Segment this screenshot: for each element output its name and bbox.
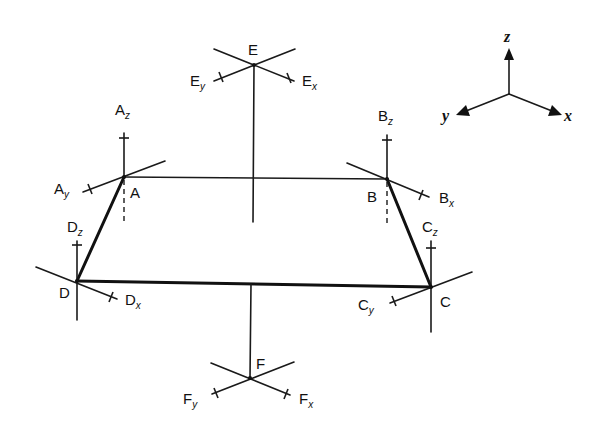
member-ad: [77, 177, 124, 281]
member-ab: [124, 177, 387, 179]
y-axis-arrowhead-icon: [456, 105, 470, 116]
joint-c-label: C: [440, 293, 451, 310]
joint-a-label: A: [130, 184, 140, 201]
force-dx-label: Dx: [125, 291, 142, 311]
joint-d-dot: [75, 279, 79, 283]
joint-c: C Cz Cy: [358, 218, 472, 332]
joint-f: F Fy Fx: [183, 355, 314, 410]
force-ey-label: Ey: [190, 72, 206, 92]
joint-c-dot: [429, 285, 433, 289]
joint-e-dot: [252, 63, 256, 67]
joint-f-dot: [248, 376, 252, 380]
force-fy-label: Fy: [183, 390, 198, 410]
joint-b-label: B: [367, 188, 377, 205]
z-axis-label: z: [503, 28, 511, 45]
truss-diagram: z y x E Ey Ex A Az Ay: [0, 0, 603, 430]
member-dc: [77, 281, 431, 287]
force-bz-label: Bz: [378, 107, 393, 127]
force-fx-label: Fx: [299, 390, 314, 410]
force-bx-label: Bx: [439, 189, 455, 209]
force-az-label: Az: [115, 101, 130, 121]
joint-b: B Bz Bx: [347, 107, 455, 225]
strut-e: [253, 65, 254, 222]
joint-f-label: F: [256, 355, 265, 372]
coordinate-axes: z y x: [440, 28, 572, 125]
force-cy-label: Cy: [358, 296, 375, 316]
joint-d-label: D: [59, 284, 70, 301]
joint-a-dot: [122, 175, 126, 179]
force-ex-label: Ex: [302, 72, 318, 92]
y-axis-label: y: [440, 107, 450, 125]
force-ay-label: Ay: [54, 180, 70, 200]
force-cz-label: Cz: [422, 218, 438, 238]
force-dz-label: Dz: [67, 218, 83, 238]
x-axis-arrowhead-icon: [548, 105, 562, 116]
joint-b-dot: [385, 177, 389, 181]
strut-f: [250, 284, 251, 378]
y-axis-line: [466, 94, 509, 111]
x-axis-line: [509, 94, 552, 111]
joint-d: D Dz Dx: [36, 218, 142, 320]
x-axis-label: x: [563, 107, 572, 124]
joint-e-label: E: [248, 41, 258, 58]
joint-f-axis-2: [212, 362, 294, 394]
z-axis-arrowhead-icon: [504, 48, 514, 60]
